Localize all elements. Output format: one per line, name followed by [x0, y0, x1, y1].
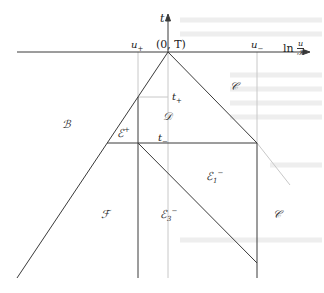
- region-F: ℱ: [101, 209, 110, 220]
- region-E3-minus: ℰ3−: [160, 208, 177, 223]
- region-C-bottom: 𝒞: [273, 209, 281, 220]
- fraction-denominator: 𝒦: [297, 49, 304, 57]
- e1-sub: 1: [213, 177, 217, 185]
- u-plus-label: u+: [131, 40, 143, 53]
- region-E-plus: ℰ+: [117, 127, 130, 139]
- e-plus-text: ℰ: [117, 127, 124, 140]
- e-plus-sup: +: [124, 126, 130, 134]
- origin-label: (0, T): [156, 39, 186, 50]
- left-diagonal: [17, 52, 168, 278]
- boundaries: [17, 52, 257, 278]
- phase-diagram: t (0, T) ln u 𝒦 u+ u− t+ t− ℬ 𝒞 𝒟 ℰ+ ℰ1−…: [0, 0, 324, 293]
- vertical-axis-arrow: [166, 14, 171, 21]
- region-E1-minus: ℰ1−: [206, 170, 223, 185]
- t-axis-label: t: [160, 13, 164, 24]
- region-D: 𝒟: [163, 111, 172, 122]
- t-plus-sub: +: [176, 97, 182, 105]
- region-C-top: 𝒞: [230, 81, 238, 92]
- faint-guides: [138, 52, 290, 278]
- fraction: u 𝒦: [297, 40, 304, 57]
- t-minus-label: t−: [158, 133, 168, 146]
- ln-text: ln: [283, 42, 294, 55]
- region-B: ℬ: [62, 119, 71, 130]
- e1-sup: −: [217, 169, 223, 177]
- u-plus-sub: +: [137, 45, 143, 53]
- e3-text: ℰ: [160, 208, 167, 221]
- e3-sub: 3: [167, 215, 171, 223]
- u-minus-label: u−: [251, 40, 263, 53]
- t-plus-label: t+: [172, 92, 182, 105]
- e3-sup: −: [171, 207, 177, 215]
- horizontal-axis-label: ln u 𝒦: [283, 40, 304, 57]
- inner-diagonal: [138, 143, 257, 263]
- t-minus-sub: −: [162, 138, 168, 146]
- e1-text: ℰ: [206, 170, 213, 183]
- u-minus-sub: −: [257, 45, 263, 53]
